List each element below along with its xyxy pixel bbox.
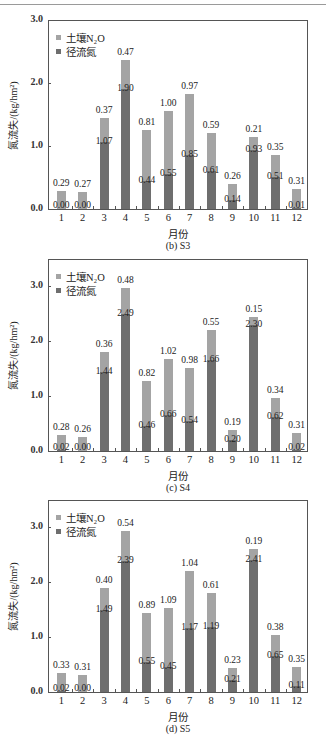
value-label-runoff: 0.55 xyxy=(153,168,183,178)
value-label-n2o: 0.37 xyxy=(89,105,119,115)
value-label-n2o: 0.59 xyxy=(196,120,226,130)
x-tick xyxy=(93,206,94,209)
bar-month-11 xyxy=(271,398,280,451)
x-tick xyxy=(136,689,137,692)
value-label-runoff: 1.44 xyxy=(89,366,119,376)
x-tick-label-3: 3 xyxy=(94,212,114,223)
figure-caption: (d) S5 xyxy=(138,723,218,734)
bar-segment-runoff xyxy=(100,142,109,209)
bar-segment-n2o xyxy=(142,130,151,181)
x-tick-label-12: 12 xyxy=(287,454,307,465)
value-label-runoff: 1.07 xyxy=(89,136,119,146)
value-label-runoff: 0.85 xyxy=(175,149,205,159)
value-label-n2o: 0.97 xyxy=(175,81,205,91)
bar-segment-n2o xyxy=(185,368,194,422)
value-label-n2o: 0.40 xyxy=(89,575,119,585)
x-tick-label-6: 6 xyxy=(158,695,178,706)
legend-label: 土壤N₂O xyxy=(66,30,105,45)
x-tick xyxy=(265,448,266,451)
value-label-runoff: 2.39 xyxy=(110,555,140,565)
x-tick xyxy=(93,689,94,692)
y-tick-label: 1.0 xyxy=(19,630,43,641)
legend-item-n2o: 土壤N₂O xyxy=(56,510,105,524)
value-label-n2o: 0.31 xyxy=(282,420,312,430)
y-tick xyxy=(48,396,51,397)
bar-segment-runoff xyxy=(100,372,109,451)
value-label-n2o: 0.26 xyxy=(68,424,98,434)
value-label-n2o: 0.35 xyxy=(260,142,290,152)
y-tick xyxy=(48,146,51,147)
x-tick xyxy=(179,689,180,692)
y-tick-label: 2.0 xyxy=(19,334,43,345)
bar-month-5 xyxy=(142,613,151,692)
y-tick xyxy=(48,83,51,84)
x-axis-title: 月份 xyxy=(148,226,208,241)
x-tick xyxy=(115,206,116,209)
x-tick xyxy=(243,689,244,692)
x-tick xyxy=(136,206,137,209)
value-label-runoff: 0.54 xyxy=(175,415,205,425)
y-tick xyxy=(48,286,51,287)
bar-month-10 xyxy=(249,317,258,451)
bar-segment-runoff xyxy=(271,417,280,451)
legend-swatch-runoff xyxy=(56,288,61,293)
x-tick xyxy=(115,689,116,692)
value-label-runoff: 2.41 xyxy=(239,554,269,564)
legend-item-runoff: 径流氮 xyxy=(56,524,105,538)
x-tick-label-6: 6 xyxy=(158,212,178,223)
x-tick xyxy=(158,689,159,692)
x-tick-label-5: 5 xyxy=(137,212,157,223)
x-tick-label-7: 7 xyxy=(180,695,200,706)
bar-segment-runoff xyxy=(249,150,258,209)
legend-label: 径流氮 xyxy=(66,44,96,59)
legend-swatch-n2o xyxy=(56,274,61,279)
x-tick xyxy=(265,206,266,209)
value-label-runoff: 1.66 xyxy=(196,354,226,364)
value-label-runoff: 1.49 xyxy=(89,604,119,614)
bar-segment-n2o xyxy=(164,359,173,415)
y-axis-title: 氮流失/(kg/hm²) xyxy=(5,537,20,657)
value-label-n2o: 0.23 xyxy=(217,655,247,665)
x-tick xyxy=(136,448,137,451)
legend: 土壤N₂O径流氮 xyxy=(56,30,105,58)
x-tick-label-1: 1 xyxy=(51,212,71,223)
x-tick-label-7: 7 xyxy=(180,454,200,465)
y-tick-label: 1.0 xyxy=(19,389,43,400)
bar-segment-n2o xyxy=(164,111,173,174)
legend-swatch-n2o xyxy=(56,35,61,40)
value-label-n2o: 0.47 xyxy=(110,47,140,57)
x-tick xyxy=(222,689,223,692)
bar-month-5 xyxy=(142,130,151,209)
value-label-n2o: 0.27 xyxy=(68,179,98,189)
bar-month-11 xyxy=(271,635,280,692)
x-tick xyxy=(179,448,180,451)
bar-month-8 xyxy=(207,593,216,692)
x-tick xyxy=(179,206,180,209)
x-tick-label-1: 1 xyxy=(51,454,71,465)
bar-segment-runoff xyxy=(121,314,130,451)
x-tick-label-12: 12 xyxy=(287,212,307,223)
value-label-n2o: 0.31 xyxy=(282,176,312,186)
x-tick-label-2: 2 xyxy=(73,454,93,465)
x-tick-label-2: 2 xyxy=(73,212,93,223)
x-tick xyxy=(200,689,201,692)
x-tick-label-11: 11 xyxy=(265,454,285,465)
bar-month-4 xyxy=(121,60,130,209)
y-tick xyxy=(48,527,51,528)
y-tick xyxy=(48,20,51,21)
x-tick xyxy=(265,689,266,692)
y-tick-label: 2.0 xyxy=(19,76,43,87)
x-tick-label-4: 4 xyxy=(115,695,135,706)
value-label-runoff: 1.19 xyxy=(196,621,226,631)
bar-segment-runoff xyxy=(207,171,216,209)
value-label-runoff: 2.30 xyxy=(239,319,269,329)
x-tick-label-9: 9 xyxy=(222,454,242,465)
value-label-n2o: 0.82 xyxy=(132,368,162,378)
y-tick-label: 0.0 xyxy=(19,444,43,455)
bar-segment-n2o xyxy=(142,613,151,662)
bar-segment-runoff xyxy=(207,360,216,451)
value-label-n2o: 0.54 xyxy=(110,518,140,528)
x-tick-label-9: 9 xyxy=(222,695,242,706)
x-tick xyxy=(243,448,244,451)
y-axis-title: 氮流失/(kg/hm²) xyxy=(5,55,20,175)
